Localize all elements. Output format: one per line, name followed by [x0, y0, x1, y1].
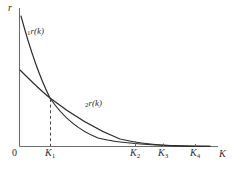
tick-label-k3: K3 [158, 148, 168, 160]
tick-label-k1: K1 [45, 148, 55, 160]
curve-1r-k [21, 16, 210, 146]
x-axis-label: K [219, 149, 226, 159]
tick-label-k2: K2 [130, 148, 140, 160]
tick-label-k1-base: K [45, 147, 52, 158]
curve-2-label: 2r(k) [85, 99, 102, 109]
tick-label-k4-base: K [190, 147, 197, 158]
figure-container: r K 0 1r(k) 2r(k) K1 K2 K3 K4 [0, 0, 239, 180]
tick-label-k2-sub: 2 [137, 152, 141, 160]
curve-2r-k [20, 70, 210, 146]
origin-label: 0 [12, 148, 17, 158]
y-axis-label: r [8, 3, 12, 13]
curve-1-label: 1r(k) [27, 27, 44, 37]
tick-label-k3-base: K [158, 147, 165, 158]
tick-label-k2-base: K [130, 147, 137, 158]
curve-1-label-text: r(k) [31, 26, 45, 36]
tick-label-k4: K4 [190, 148, 200, 160]
tick-label-k4-sub: 4 [197, 152, 201, 160]
curve-2-label-text: r(k) [89, 98, 103, 108]
tick-label-k1-sub: 1 [52, 152, 56, 160]
tick-label-k3-sub: 3 [165, 152, 169, 160]
